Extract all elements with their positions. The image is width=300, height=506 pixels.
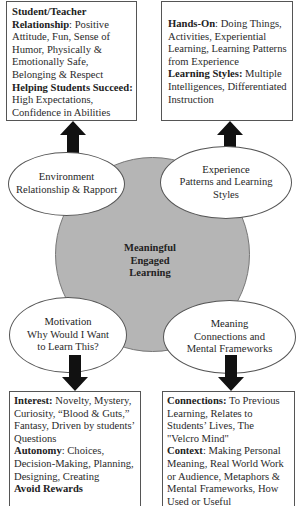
ellipse-subtitle: Relationship & Rapport xyxy=(16,184,117,197)
ellipse-title: Environment xyxy=(39,171,94,184)
motivation-details-box: Interest: Novelty, Mystery, Curiosity, “… xyxy=(9,391,141,506)
heading-interest: Interest: xyxy=(14,395,53,406)
center-text: Learning xyxy=(100,267,200,280)
ellipse-title: Motivation xyxy=(44,316,91,329)
ellipse-subtitle: Patterns and Learning xyxy=(180,176,273,189)
text: Intelligences, Differentiated xyxy=(168,81,292,94)
text: To Previous xyxy=(226,395,279,406)
heading-relationship: Relationship xyxy=(12,19,69,30)
arrow-down-icon xyxy=(218,355,244,391)
center-label: Meaningful Engaged Learning xyxy=(100,242,200,280)
ellipse-subtitle: Styles xyxy=(213,189,239,202)
text: Learning, Learning Patterns xyxy=(168,43,292,56)
center-text: Engaged xyxy=(100,255,200,268)
heading-autonomy: Autonomy xyxy=(14,445,62,456)
text: or Audience, Metaphors & xyxy=(167,471,294,484)
meaning-details-box: Connections: To Previous Learning, Relat… xyxy=(162,391,295,506)
text: Mental Frameworks, How xyxy=(167,483,294,496)
text: Designing, Creating xyxy=(14,471,140,484)
text: Confidence in Abilities xyxy=(12,107,136,120)
ellipse-subtitle: Connections and xyxy=(194,331,265,344)
ellipse-subtitle: Why Would I Want xyxy=(27,329,109,342)
heading-context: Context xyxy=(167,445,203,456)
text: Attitude, Fun, Sense of xyxy=(12,31,136,44)
heading-student-teacher: Student/Teacher xyxy=(12,6,86,17)
center-text: Meaningful xyxy=(100,242,200,255)
heading-connections: Connections: xyxy=(167,395,226,406)
text: Multiple xyxy=(242,68,281,79)
text: Activities, Experiential xyxy=(168,31,292,44)
ellipse-title: Experience xyxy=(202,164,250,177)
text: : Doing Things, xyxy=(215,18,282,29)
environment-ellipse: Environment Relationship & Rapport xyxy=(8,152,125,216)
text: Questions xyxy=(14,433,140,446)
text: Fantasy, Driven by students’ xyxy=(14,420,140,433)
arrow-down-icon xyxy=(62,355,88,391)
text: : Positive xyxy=(69,19,109,30)
text: Meaning, Real World Work xyxy=(167,458,294,471)
text: Instruction xyxy=(168,94,292,107)
text: Used or Useful xyxy=(167,496,294,506)
text: Learning, Relates to xyxy=(167,408,294,421)
text: High Expectations, xyxy=(12,94,136,107)
environment-details-box: Student/Teacher Relationship: Positive A… xyxy=(6,1,137,121)
text: Decision-Making, Planning, xyxy=(14,458,140,471)
experience-details-box: Hands-On: Doing Things, Activities, Expe… xyxy=(161,1,293,121)
experience-ellipse: Experience Patterns and Learning Styles xyxy=(160,146,292,219)
ellipse-subtitle: Mental Frameworks xyxy=(187,343,273,356)
heading-hands-on: Hands-On xyxy=(168,18,215,29)
text: Belonging & Respect xyxy=(12,69,136,82)
ellipse-title: Meaning xyxy=(211,318,249,331)
heading-helping-students: Helping Students Succeed: xyxy=(12,82,133,93)
text: : Choices, xyxy=(62,445,104,456)
text: Curiosity, “Blood & Guts,” xyxy=(14,408,140,421)
ellipse-subtitle: to Learn This? xyxy=(37,341,99,354)
text: Emotionally Safe, xyxy=(12,56,136,69)
heading-avoid-rewards: Avoid Rewards xyxy=(14,483,83,494)
text: Humor, Physically & xyxy=(12,44,136,57)
heading-learning-styles: Learning Styles: xyxy=(168,68,242,79)
text: "Velcro Mind" xyxy=(167,433,294,446)
text: Students’ Lives, The xyxy=(167,420,294,433)
text: : Making Personal xyxy=(203,445,281,456)
text: from Experience xyxy=(168,56,292,69)
text: Novelty, Mystery, xyxy=(53,395,132,406)
